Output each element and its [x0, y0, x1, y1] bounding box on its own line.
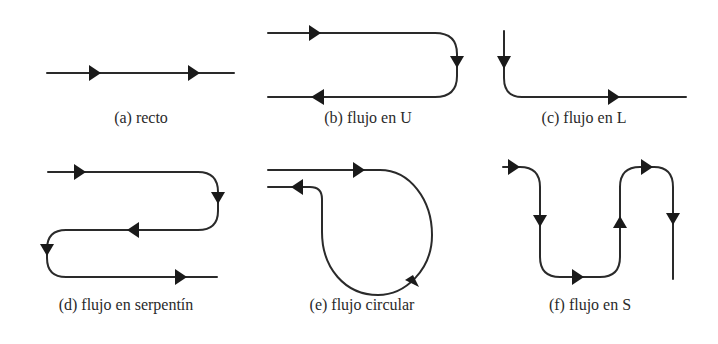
arrow-right-icon	[74, 164, 86, 180]
arrow-right-icon	[353, 162, 365, 178]
caption-d: (d) flujo en serpentín	[59, 296, 194, 314]
arrow-down-icon	[666, 213, 680, 225]
arrow-right-icon	[188, 65, 200, 81]
caption-f: (f) flujo en S	[549, 296, 631, 314]
caption-b: (b) flujo en U	[324, 109, 412, 127]
arrow-right-icon	[89, 65, 101, 81]
arrow-down-icon	[450, 56, 464, 68]
caption-e: (e) flujo circular	[310, 296, 415, 314]
arrow-left-icon	[291, 179, 303, 195]
arrow-right-icon	[309, 25, 321, 41]
arrow-right-icon	[608, 89, 620, 105]
arrow-left-icon	[311, 89, 324, 105]
arrow-right-icon	[572, 269, 584, 285]
flow-patterns-diagram	[0, 0, 718, 344]
panel-f-s-flow	[503, 159, 680, 285]
panel-e-circular-flow	[268, 162, 432, 295]
arrow-down-icon	[497, 56, 511, 69]
arrow-down-icon	[211, 192, 225, 204]
panel-a-straight-flow	[47, 65, 234, 81]
caption-c: (c) flujo en L	[542, 109, 627, 127]
arrow-right-icon	[175, 269, 187, 285]
arrow-left-icon	[127, 222, 139, 238]
arrow-right-icon	[508, 159, 520, 175]
arrow-up-icon	[613, 216, 627, 228]
panel-c-l-flow	[497, 31, 686, 105]
caption-a: (a) recto	[114, 109, 168, 127]
panel-d-serpentine-flow	[40, 164, 225, 285]
arrow-down-icon	[40, 244, 54, 256]
arrow-right-icon	[641, 159, 653, 175]
arrow-down-icon	[533, 215, 547, 227]
panel-b-u-flow	[268, 25, 464, 105]
